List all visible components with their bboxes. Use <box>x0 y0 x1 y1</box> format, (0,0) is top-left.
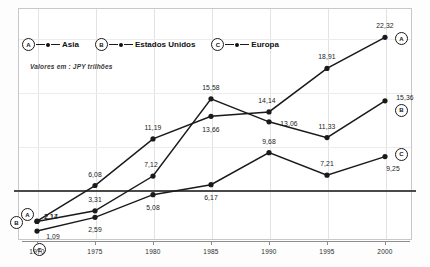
data-point[interactable] <box>324 66 329 71</box>
data-point[interactable] <box>208 114 213 119</box>
line-chart: A Asia B Estados Unidos C Europa Valores… <box>0 0 430 267</box>
value-label: 9,68 <box>262 138 276 145</box>
data-point[interactable] <box>92 183 97 188</box>
value-label: 7,21 <box>320 160 334 167</box>
value-label: 9,25 <box>386 165 400 172</box>
data-point[interactable] <box>208 182 213 187</box>
value-label: 1,09 <box>46 233 60 240</box>
data-point[interactable] <box>150 192 155 197</box>
x-axis-tick <box>327 241 328 245</box>
x-axis-label: 2000 <box>368 248 402 255</box>
data-point[interactable] <box>324 135 329 140</box>
data-point[interactable] <box>382 154 387 159</box>
data-point[interactable] <box>324 173 329 178</box>
value-label: 13,06 <box>280 120 298 127</box>
value-label: 11,33 <box>318 123 335 130</box>
x-axis-tick <box>37 241 38 245</box>
x-axis-label: 1980 <box>136 248 170 255</box>
value-label: 15,58 <box>202 84 220 91</box>
x-axis-tick <box>95 241 96 245</box>
series-layer <box>0 0 430 267</box>
series-badge-c-end: C <box>395 148 408 161</box>
x-axis-line <box>22 241 410 242</box>
value-label: 2,14 <box>44 213 58 220</box>
value-label: 6,08 <box>88 171 102 178</box>
value-label: 3,31 <box>88 196 102 203</box>
series-badge-b-end: B <box>395 104 408 117</box>
x-axis-label: 1990 <box>252 248 286 255</box>
x-axis-label: 1985 <box>194 248 228 255</box>
data-point[interactable] <box>382 35 387 40</box>
data-point[interactable] <box>208 96 213 101</box>
x-axis-tick <box>269 241 270 245</box>
value-label: 18,91 <box>318 53 336 60</box>
data-point[interactable] <box>266 119 271 124</box>
x-axis-tick <box>211 241 212 245</box>
value-label: 22,32 <box>376 22 394 29</box>
x-axis-tick <box>385 241 386 245</box>
value-label: 6,17 <box>204 194 218 201</box>
data-point[interactable] <box>92 208 97 213</box>
x-axis-tick <box>153 241 154 245</box>
data-point[interactable] <box>266 150 271 155</box>
value-label: 2,59 <box>88 226 102 233</box>
value-label: 11,19 <box>144 124 161 131</box>
value-label: 13,66 <box>202 126 220 133</box>
data-point[interactable] <box>34 228 39 233</box>
data-point[interactable] <box>34 219 39 224</box>
data-point[interactable] <box>266 109 271 114</box>
x-axis-label: 1970 <box>20 248 54 255</box>
x-axis-label: 1975 <box>78 248 112 255</box>
data-point[interactable] <box>92 215 97 220</box>
value-label: 14,14 <box>258 97 276 104</box>
data-point[interactable] <box>150 173 155 178</box>
value-label: 5,08 <box>146 204 160 211</box>
data-point[interactable] <box>150 136 155 141</box>
x-axis-label: 1995 <box>310 248 344 255</box>
value-label: 15,36 <box>396 94 414 101</box>
data-point[interactable] <box>382 98 387 103</box>
value-label: 7,12 <box>144 161 158 168</box>
